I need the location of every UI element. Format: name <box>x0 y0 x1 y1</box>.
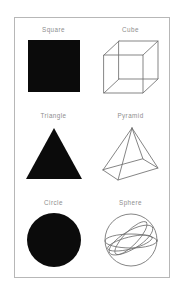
shape-cell-triangle: Triangle <box>15 104 92 190</box>
shape-figure-triangle <box>25 125 83 183</box>
shapes-poster: Square Cube <box>0 0 184 295</box>
shape-cell-circle: Circle <box>15 191 92 277</box>
shape-figure-square <box>25 38 83 96</box>
shape-figure-circle <box>25 211 83 269</box>
shape-cell-square: Square <box>15 18 92 104</box>
shape-figure-pyramid <box>102 125 160 183</box>
shape-cell-pyramid: Pyramid <box>92 104 169 190</box>
shape-label-sphere: Sphere <box>119 200 142 206</box>
shape-label-circle: Circle <box>44 200 63 206</box>
shape-label-cube: Cube <box>122 27 139 33</box>
shape-figure-cube <box>102 38 160 96</box>
shape-label-triangle: Triangle <box>40 113 66 119</box>
shape-cell-cube: Cube <box>92 18 169 104</box>
shapes-grid: Square Cube <box>15 18 169 277</box>
shape-cell-sphere: Sphere <box>92 191 169 277</box>
shape-label-pyramid: Pyramid <box>117 113 143 119</box>
shape-label-square: Square <box>42 27 65 33</box>
shape-figure-sphere <box>102 211 160 269</box>
